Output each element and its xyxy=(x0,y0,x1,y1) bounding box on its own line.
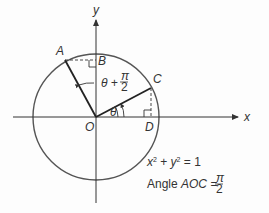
label-b: B xyxy=(98,54,106,68)
label-c: C xyxy=(153,72,162,86)
angle-arc-theta-2 xyxy=(121,104,124,117)
equation-angle-den: 2 xyxy=(216,182,223,196)
label-x: x xyxy=(243,110,251,124)
angle-arc-theta-plus-pi-2 xyxy=(79,83,94,85)
right-angle-b xyxy=(89,60,96,67)
radius-oa xyxy=(65,60,96,117)
label-theta-plus: θ + xyxy=(101,76,118,90)
unit-circle-diagram: y x O A B C D θ θ + π 2 x2 + y2 = 1 Angl… xyxy=(0,0,269,213)
equation-circle: x2 + y2 = 1 xyxy=(146,155,201,169)
diagram-svg: y x O A B C D θ θ + π 2 x2 + y2 = 1 Angl… xyxy=(0,0,269,213)
label-pi-den: 2 xyxy=(121,80,128,94)
label-a: A xyxy=(55,44,64,58)
label-y: y xyxy=(92,3,100,17)
label-o: O xyxy=(85,120,94,134)
equation-angle: Angle AOC = xyxy=(147,177,217,191)
right-angle-d xyxy=(144,110,151,117)
label-d: D xyxy=(145,120,154,134)
label-theta: θ xyxy=(110,105,117,119)
